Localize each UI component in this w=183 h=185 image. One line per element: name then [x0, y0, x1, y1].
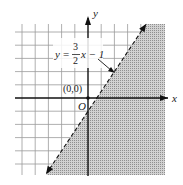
graph-canvas: x y (0,0) O y = 3 2 x − 1: [0, 0, 183, 185]
y-axis-arrow-icon: [85, 16, 91, 25]
equation-rhs: x − 1: [80, 48, 104, 60]
equation-eq: =: [63, 48, 69, 60]
inequality-graph: x y (0,0) O y = 3 2 x − 1: [0, 0, 183, 185]
x-axis-label: x: [171, 92, 177, 104]
equation-lhs: y: [54, 48, 60, 60]
origin-label: O: [78, 100, 86, 112]
equation-label: y = 3 2 x − 1: [53, 38, 104, 68]
test-point-label: (0,0): [63, 83, 82, 95]
origin-point: [86, 96, 90, 100]
equation-frac-num: 3: [73, 41, 78, 52]
y-axis-label: y: [92, 7, 98, 19]
equation-frac-den: 2: [73, 55, 78, 66]
